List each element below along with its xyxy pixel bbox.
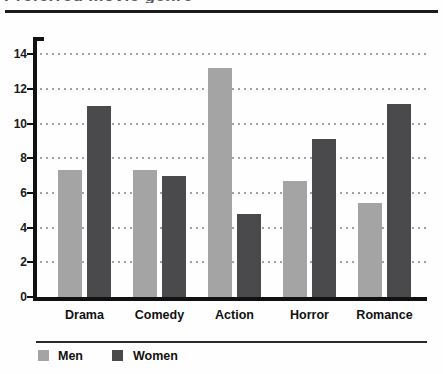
clipped-page-title: Preferred movie genre bbox=[4, 0, 264, 3]
legend-label-women: Women bbox=[133, 349, 178, 363]
y-tick-label-10: 10 bbox=[3, 118, 27, 130]
gridline-y12 bbox=[40, 88, 427, 90]
y-tick-2 bbox=[27, 261, 33, 263]
bar-women-romance bbox=[387, 104, 411, 297]
y-tick-label-2: 2 bbox=[3, 256, 27, 268]
top-divider-rule bbox=[5, 10, 438, 13]
y-tick-label-6: 6 bbox=[3, 187, 27, 199]
y-tick-4 bbox=[27, 227, 33, 229]
bar-men-drama bbox=[58, 170, 82, 297]
bar-men-horror bbox=[283, 181, 307, 297]
bar-men-romance bbox=[358, 203, 382, 297]
y-tick-10 bbox=[27, 123, 33, 125]
y-axis-line bbox=[33, 37, 37, 301]
category-label-horror: Horror bbox=[275, 308, 345, 322]
y-tick-8 bbox=[27, 157, 33, 159]
legend-swatch-women bbox=[112, 350, 123, 361]
y-tick-6 bbox=[27, 192, 33, 194]
bar-men-action bbox=[208, 68, 232, 297]
y-tick-label-8: 8 bbox=[3, 152, 27, 164]
y-tick-label-4: 4 bbox=[3, 222, 27, 234]
y-tick-label-0: 0 bbox=[3, 291, 27, 303]
gridline-y14 bbox=[40, 53, 427, 55]
y-tick-label-14: 14 bbox=[3, 48, 27, 60]
y-tick-12 bbox=[27, 88, 33, 90]
legend-swatch-men bbox=[38, 350, 49, 361]
y-tick-label-12: 12 bbox=[3, 83, 27, 95]
category-label-drama: Drama bbox=[50, 308, 120, 322]
legend-divider-rule bbox=[36, 341, 427, 343]
category-label-romance: Romance bbox=[350, 308, 420, 322]
x-axis-baseline bbox=[33, 297, 427, 301]
legend-label-men: Men bbox=[58, 349, 83, 363]
y-tick-0 bbox=[27, 296, 33, 298]
y-tick-14 bbox=[27, 53, 33, 55]
category-label-comedy: Comedy bbox=[125, 308, 195, 322]
bar-women-comedy bbox=[162, 176, 186, 297]
chart-screenshot: Preferred movie genre 02468101214 DramaC… bbox=[0, 0, 443, 374]
y-axis-top-cap bbox=[33, 37, 44, 41]
bar-women-action bbox=[237, 214, 261, 297]
bar-men-comedy bbox=[133, 170, 157, 297]
bar-women-horror bbox=[312, 139, 336, 297]
category-label-action: Action bbox=[200, 308, 270, 322]
bar-women-drama bbox=[87, 106, 111, 297]
